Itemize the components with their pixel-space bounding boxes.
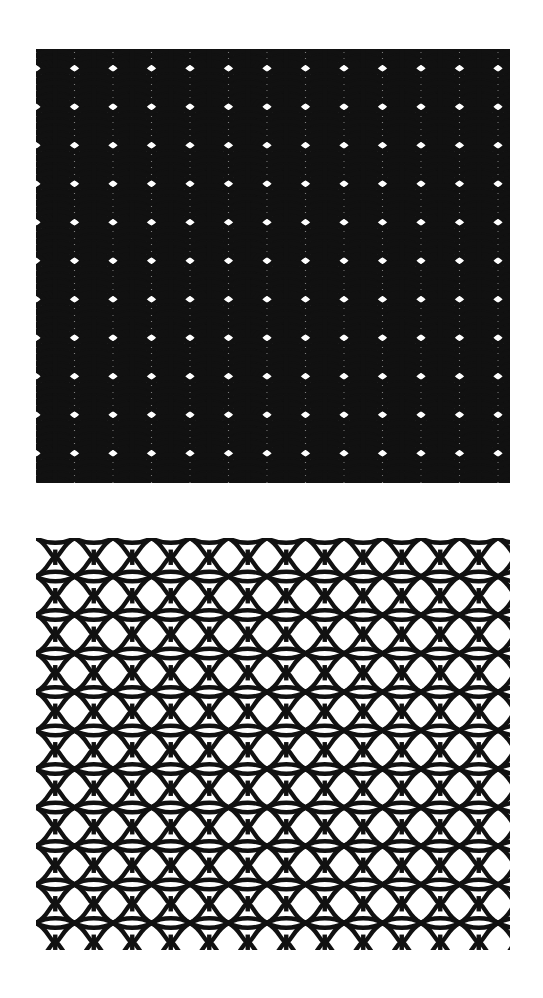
dense-arc-lattice xyxy=(36,49,510,483)
pattern-panel-top xyxy=(36,49,510,483)
pattern-panel-bottom xyxy=(36,538,510,950)
open-arc-lattice xyxy=(36,538,510,950)
pattern-page xyxy=(0,0,543,998)
